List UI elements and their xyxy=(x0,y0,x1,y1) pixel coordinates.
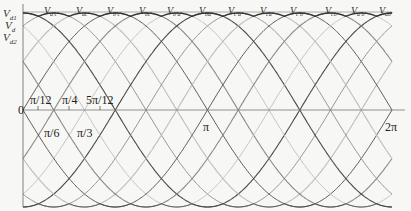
tick-pi-6: π/6 xyxy=(44,126,59,140)
waveform-label: Vca' xyxy=(260,5,274,17)
tick-2pi: 2π xyxy=(385,120,397,134)
bottom-envelope xyxy=(23,204,392,207)
waveform-label: Vab' xyxy=(379,5,393,17)
waveform-label: Vba' xyxy=(199,5,213,17)
tick-pi-3: π/3 xyxy=(77,126,92,140)
waveform-label: Vb'c' xyxy=(107,5,122,17)
waveform-label: Vc'a' xyxy=(228,5,243,17)
tick-pi-12: π/12 xyxy=(30,93,51,107)
tick-pi: π xyxy=(203,120,209,134)
tick-5pi-12: 5π/12 xyxy=(86,93,113,107)
waveform-diagram: Vd1 Vd Vd2 Va'c' Vac' Vb'c' Vbc' Vb'a' V… xyxy=(0,0,411,211)
waveform-label: Va'b' xyxy=(351,5,366,17)
waveform-label: Vbc' xyxy=(139,5,153,17)
tick-pi-4: π/4 xyxy=(62,93,77,107)
waveform-label: Vc'b' xyxy=(290,5,305,17)
waveform-label: Vb'a' xyxy=(167,5,182,17)
waveform-label: Va'c' xyxy=(44,5,59,17)
waveform-label: Vcb' xyxy=(325,5,339,17)
origin-label: 0 xyxy=(18,103,24,117)
waveform-label: Vac' xyxy=(76,5,90,17)
